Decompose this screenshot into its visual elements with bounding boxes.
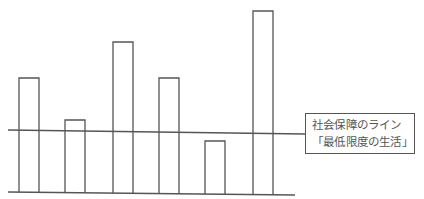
- bar-3: [113, 42, 133, 194]
- bars-group: [19, 11, 273, 195]
- social-security-label-box: 社会保障のライン 「最低限度の生活」: [305, 113, 415, 154]
- label-line-2: 「最低限度の生活」: [312, 134, 414, 151]
- bar-6: [253, 11, 273, 195]
- bar-1: [19, 78, 39, 193]
- social-security-line: [8, 130, 305, 134]
- label-line-1: 社会保障のライン: [312, 117, 414, 134]
- diagram-canvas: [0, 0, 424, 199]
- bar-4: [159, 78, 179, 194]
- bar-5: [205, 141, 225, 195]
- baseline-axis: [8, 192, 295, 195]
